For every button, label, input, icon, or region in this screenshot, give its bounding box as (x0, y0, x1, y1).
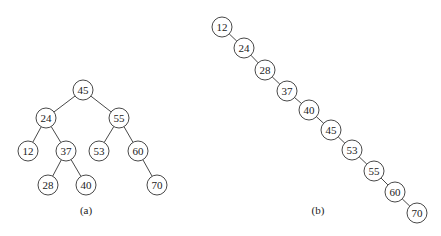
edge-37-40 (295, 98, 302, 104)
node-label: 53 (347, 144, 359, 156)
edge-55-60 (124, 127, 133, 143)
node-label: 28 (260, 64, 272, 76)
edge-45-55 (91, 96, 111, 112)
tree-node-12: 12 (18, 141, 38, 161)
node-label: 40 (81, 179, 93, 191)
node-label: 60 (133, 145, 145, 157)
panel-a-balanced-tree: 45245512375360284070(a) (18, 80, 167, 217)
edge-60-70 (402, 199, 410, 206)
tree-node-60: 60 (128, 141, 148, 161)
node-label: 45 (78, 84, 90, 96)
edge-53-55 (359, 157, 367, 164)
edge-24-37 (51, 127, 61, 143)
node-label: 12 (217, 21, 228, 33)
tree-node-70: 70 (147, 175, 167, 195)
edge-37-28 (53, 160, 62, 176)
tree-node-53: 53 (342, 140, 362, 160)
tree-node-40: 40 (76, 175, 96, 195)
node-label: 24 (239, 42, 251, 54)
tree-node-53: 53 (89, 141, 109, 161)
edge-55-53 (104, 127, 114, 143)
edge-12-24 (229, 34, 237, 41)
node-label: 45 (326, 124, 338, 136)
tree-node-60: 60 (385, 182, 405, 202)
figure-canvas: 45245512375360284070(a) 1224283740455355… (0, 0, 441, 236)
edge-45-24 (54, 96, 75, 112)
edge-40-45 (316, 117, 323, 124)
tree-node-37: 37 (277, 81, 297, 101)
edge-28-37 (272, 77, 280, 84)
bst-comparison-diagram: 45245512375360284070(a) 1224283740455355… (0, 0, 441, 236)
node-label: 37 (282, 85, 294, 97)
node-label: 37 (61, 145, 73, 157)
panel-b-degenerate-tree: 12242837404553556070(b) (212, 17, 427, 223)
tree-node-55: 55 (364, 161, 384, 181)
node-label: 55 (369, 165, 381, 177)
tree-node-24: 24 (234, 38, 254, 58)
tree-node-70: 70 (407, 203, 427, 223)
tree-node-28: 28 (255, 60, 275, 80)
edge-60-70 (143, 160, 152, 177)
node-label: 60 (390, 186, 402, 198)
edge-24-28 (251, 55, 258, 63)
edge-37-40 (71, 160, 81, 177)
node-label: 55 (114, 112, 126, 124)
tree-node-28: 28 (38, 175, 58, 195)
edge-24-12 (33, 127, 41, 142)
node-label: 28 (43, 179, 55, 191)
tree-node-12: 12 (212, 17, 232, 37)
tree-node-40: 40 (299, 100, 319, 120)
tree-node-45: 45 (73, 80, 93, 100)
tree-node-55: 55 (109, 108, 129, 128)
node-label: 70 (412, 207, 424, 219)
node-label: 40 (304, 104, 316, 116)
tree-node-45: 45 (321, 120, 341, 140)
node-label: 53 (94, 145, 106, 157)
node-label: 24 (41, 112, 53, 124)
edge-55-60 (381, 178, 388, 185)
tree-node-37: 37 (56, 141, 76, 161)
edge-45-53 (338, 137, 345, 143)
panel-caption-b: (b) (312, 204, 325, 217)
node-label: 12 (23, 145, 34, 157)
node-label: 70 (152, 179, 164, 191)
tree-node-24: 24 (36, 108, 56, 128)
panel-caption-a: (a) (80, 204, 93, 217)
